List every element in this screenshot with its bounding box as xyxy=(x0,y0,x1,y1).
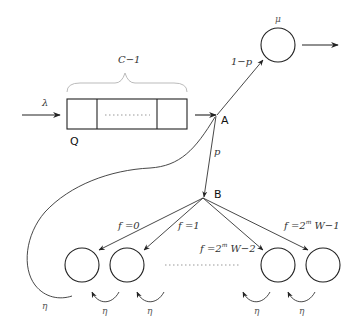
backoff-stage-n-minus-1 xyxy=(261,248,295,282)
backoff-stage-1 xyxy=(110,248,144,282)
to-server-prob-label: 1−p xyxy=(231,56,253,67)
node-a-label: A xyxy=(221,114,229,127)
a-to-server-arrow xyxy=(217,60,263,115)
arrival-rate-label: λ xyxy=(41,97,48,108)
retry-feedback-curve xyxy=(27,117,215,298)
eta-label-3: η xyxy=(254,306,260,316)
eta-label-feedback: η xyxy=(42,301,48,311)
server-node xyxy=(261,28,295,62)
to-backoff-prob-label: p xyxy=(214,146,221,157)
eta-label-2: η xyxy=(147,306,153,316)
stage-label-1: f =1 xyxy=(177,220,200,231)
capacity-label: C−1 xyxy=(118,54,140,65)
capacity-brace xyxy=(67,73,187,92)
eta-label-4: η xyxy=(299,306,305,316)
stage-label-0: f =0 xyxy=(117,220,140,231)
queue-buffer xyxy=(67,99,187,129)
backoff-stage-n xyxy=(306,248,340,282)
retry-loops xyxy=(92,292,315,302)
eta-label-1: η xyxy=(102,306,108,316)
server-rate-label: μ xyxy=(275,14,281,24)
stage-label-2: f =2m W−2 xyxy=(199,241,256,254)
backoff-stage-0 xyxy=(65,248,99,282)
queue-label: Q xyxy=(70,135,79,148)
queueing-diagram: λ C−1 Q A 1−p μ p B f =0 f =1 f =2m W−2 xyxy=(0,0,364,335)
stage-label-3: f =2m W−1 xyxy=(283,218,340,231)
node-b-label: B xyxy=(214,188,222,201)
